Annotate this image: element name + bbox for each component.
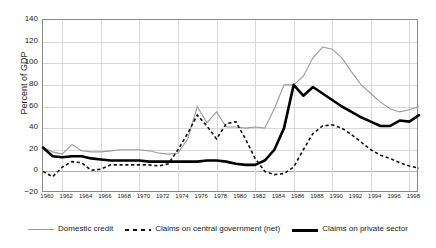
y-axis-tick-label: 0 [4,166,38,174]
x-axis-tick-label: 1982 [252,193,265,200]
y-axis-tick-label: 80 [4,80,38,88]
x-axis-tick-label: 1990 [330,193,343,200]
legend-swatch-icon [28,225,54,233]
legend-item[interactable]: Claims on private sector [292,224,408,233]
series-line-claims-on-central-government [43,115,419,177]
y-axis-tick-label: 140 [4,15,38,23]
x-axis-tick-label: 1994 [368,193,381,200]
x-axis-tick-label: 1980 [233,193,246,200]
x-axis-tick-label: 1998 [407,193,420,200]
x-axis-tick-label: 1968 [117,193,130,200]
x-axis-tick-label: 1970 [137,193,150,200]
y-axis-tick-label: 20 [4,145,38,153]
x-axis-tick-label: 1974 [175,193,188,200]
legend-swatch-icon [125,225,151,233]
x-axis-tick-label: 1966 [98,193,111,200]
x-axis-ticks: 1960196219641966196819701972197419761978… [0,193,436,205]
y-axis-tick-label: 120 [4,37,38,45]
x-axis-tick-label: 1976 [195,193,208,200]
series-line-claims-on-private-sector [43,85,419,165]
chart-figure: Percent of GDP 140120100806040200−20 196… [0,0,436,248]
legend-item-label: Claims on central government (net) [155,224,280,233]
legend-item-label: Domestic credit [58,224,113,233]
x-axis-tick-label: 1972 [156,193,169,200]
plot-area [42,19,418,192]
x-axis-tick-label: 1978 [214,193,227,200]
legend-swatch-icon [292,225,318,233]
y-axis-ticks: 140120100806040200−20 [0,0,38,248]
x-axis-tick-label: 1964 [79,193,92,200]
y-axis-tick-label: 100 [4,58,38,66]
series-line-domestic-credit [43,47,419,154]
y-axis-tick-label: 60 [4,102,38,110]
x-axis-tick-label: 1962 [60,193,73,200]
x-axis-tick-label: 1986 [291,193,304,200]
legend-item[interactable]: Domestic credit [28,224,113,233]
legend-item[interactable]: Claims on central government (net) [125,224,280,233]
series-container [43,20,419,193]
x-axis-tick-label: 1992 [349,193,362,200]
legend-item-label: Claims on private sector [322,224,408,233]
x-axis-tick-label: 1960 [40,193,53,200]
chart-legend: Domestic creditClaims on central governm… [0,224,436,233]
x-axis-tick-label: 1984 [272,193,285,200]
x-axis-tick-label: 1996 [387,193,400,200]
x-axis-tick-label: 1988 [310,193,323,200]
y-axis-tick-label: 40 [4,123,38,131]
